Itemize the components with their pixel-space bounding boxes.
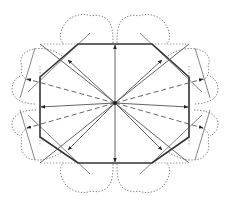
guide-diag-upper-right: [140, 33, 202, 92]
ray-corner-top-left: [40, 44, 115, 103]
guide-diag-upper-left: [28, 33, 90, 92]
ray-corner-bottom-left: [40, 103, 115, 163]
lobe-bottom-right: [117, 163, 170, 193]
lobe-top-right: [117, 14, 170, 44]
guide-diag-lower-right: [140, 115, 202, 174]
lobe-left-upper: [12, 76, 36, 104]
ray-corner-top-right: [115, 44, 189, 103]
octagon-radial-diagram: [0, 0, 230, 205]
lobe-diag-lower-left: [21, 128, 62, 160]
lobe-bottom-left: [60, 163, 113, 193]
guide-tangent-lower-right: [195, 110, 210, 160]
center-point: [113, 101, 117, 105]
guide-diag-lower-left: [28, 115, 90, 174]
guide-tangent-lower-left: [20, 110, 35, 160]
lobe-top-left: [60, 14, 113, 44]
ray-corner-bottom-right: [115, 103, 189, 163]
lobe-right-upper: [194, 76, 218, 104]
